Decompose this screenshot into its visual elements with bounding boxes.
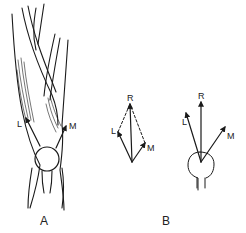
knee-diagram: L M R L M R L M A B <box>0 0 246 233</box>
panel-a-label-l: L <box>17 119 22 129</box>
medial-arrow-2 <box>201 127 225 162</box>
vector-diagram-1 <box>118 104 145 162</box>
vector1-label-m: M <box>147 143 155 153</box>
lateral-force-arrow <box>26 118 40 146</box>
vector2-label-r: R <box>198 91 205 101</box>
panel-b-caption: B <box>162 214 170 228</box>
lateral-arrow-1 <box>118 132 132 162</box>
panel-a-caption: A <box>40 214 48 228</box>
panel-a-drawing <box>12 4 68 210</box>
resultant-arrow-1 <box>130 104 132 162</box>
vector2-label-l: L <box>182 117 187 127</box>
lateral-arrow-2 <box>186 113 201 162</box>
vector1-label-l: L <box>111 126 116 136</box>
medial-force-arrow <box>56 126 66 148</box>
vector1-label-r: R <box>127 93 134 103</box>
panel-a-arrows <box>26 118 66 148</box>
vector2-label-m: M <box>227 131 235 141</box>
vector-diagram-2 <box>186 102 225 190</box>
medial-arrow-1 <box>132 143 145 162</box>
panel-a-label-m: M <box>69 121 77 131</box>
